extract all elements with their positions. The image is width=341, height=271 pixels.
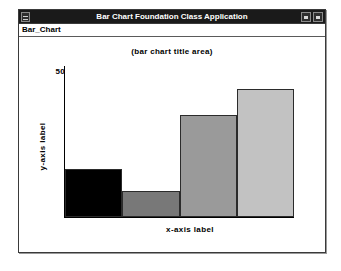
application-window: Bar Chart Foundation Class Application B… [18, 9, 326, 253]
bar-4 [237, 89, 294, 217]
chart-title: (bar chart title area) [19, 47, 325, 56]
bar-3 [180, 115, 237, 217]
window-title: Bar Chart Foundation Class Application [19, 10, 325, 24]
screen: Bar Chart Foundation Class Application B… [0, 0, 341, 271]
bar-plot-area [65, 57, 294, 217]
minimize-icon[interactable] [301, 12, 311, 22]
bar-1 [65, 169, 122, 217]
menu-item-bar-chart[interactable]: Bar_Chart [19, 24, 64, 36]
x-axis-label: x-axis label [65, 225, 315, 234]
title-bar[interactable]: Bar Chart Foundation Class Application [19, 10, 325, 24]
y-axis-label: y-axis label [38, 102, 47, 192]
maximize-icon[interactable] [313, 12, 323, 22]
y-axis-tick-label: 50 [43, 67, 65, 76]
bar-2 [122, 191, 179, 217]
window-buttons [301, 12, 323, 22]
x-axis-line [64, 217, 294, 218]
system-menu-icon[interactable] [21, 12, 30, 22]
menu-bar: Bar_Chart [19, 24, 325, 37]
chart-canvas: (bar chart title area) 50 y-axis label x… [19, 37, 325, 252]
